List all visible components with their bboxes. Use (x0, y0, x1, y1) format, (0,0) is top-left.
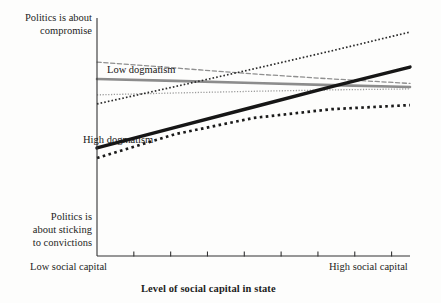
x-axis-title: Level of social capital in state (141, 283, 276, 296)
chart-plot-area (0, 0, 441, 303)
chart-figure: Politics is about compromise Politics is… (0, 0, 441, 303)
x-axis-label-low: Low social capital (30, 261, 107, 274)
series-line (97, 89, 410, 95)
y-axis-label-top: Politics is about compromise (4, 12, 92, 38)
series-line (97, 105, 410, 158)
series-annotation-low-dogmatism: Low dogmatism (107, 64, 176, 75)
series-annotation-high-dogmatism: High dogmatism (83, 134, 153, 145)
y-axis-label-bottom: Politics is about sticking to conviction… (4, 211, 92, 249)
x-axis-label-high: High social capital (329, 261, 408, 274)
